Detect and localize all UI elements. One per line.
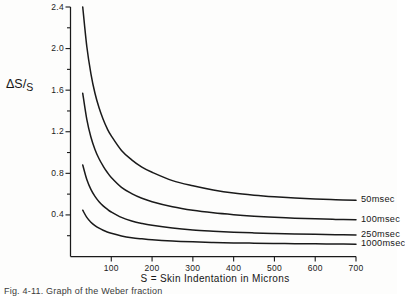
y-axis-tick-label: 2.0: [40, 43, 64, 53]
y-axis-ticks: [66, 7, 71, 236]
x-axis-tick-label: 700: [340, 263, 372, 273]
series-curve: [83, 7, 356, 200]
x-axis-tick-label: 100: [95, 263, 127, 273]
x-axis-tick-label: 200: [136, 263, 168, 273]
series-label-50msec: 50msec: [361, 194, 395, 204]
x-axis-tick-label: 300: [177, 263, 209, 273]
y-axis-title-denominator: S: [26, 81, 33, 93]
series-label-100msec: 100msec: [361, 214, 400, 224]
series-curve: [83, 93, 356, 220]
x-axis-tick-label: 500: [258, 263, 290, 273]
x-axis-title: S = Skin Indentation in Microns: [70, 273, 360, 284]
x-axis-ticks: [111, 257, 356, 262]
y-axis-tick-label: 0.8: [40, 168, 64, 178]
figure-caption: Fig. 4-11. Graph of the Weber fraction: [4, 286, 162, 296]
y-axis-title-numerator: ΔS: [6, 77, 23, 91]
chart-series-curves: [83, 7, 356, 244]
y-axis-title: ΔS/S: [6, 76, 50, 91]
series-curve: [83, 210, 356, 244]
series-curve: [83, 165, 356, 235]
y-axis-tick-label: 1.2: [40, 126, 64, 136]
x-axis-tick-label: 400: [218, 263, 250, 273]
y-axis-tick-label: 0.4: [40, 209, 64, 219]
series-label-1000msec: 1000msec: [361, 238, 405, 248]
x-axis-tick-label: 600: [299, 263, 331, 273]
y-axis-tick-label: 2.4: [40, 2, 64, 12]
